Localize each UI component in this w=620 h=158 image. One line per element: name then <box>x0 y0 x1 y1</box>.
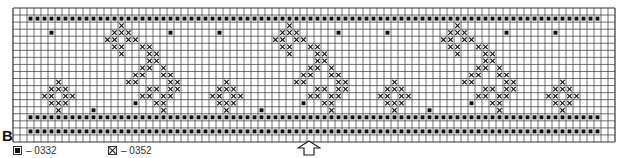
cross-stitch <box>511 80 515 84</box>
filled-square-stitch <box>71 115 75 119</box>
filled-square-stitch <box>253 115 257 119</box>
cross-stitch <box>126 38 130 42</box>
cross-stitch <box>329 108 333 112</box>
filled-square-stitch <box>85 129 89 133</box>
cross-stitch <box>399 87 403 91</box>
filled-square-stitch <box>120 129 124 133</box>
cross-stitch <box>161 66 165 70</box>
filled-square-stitch <box>260 115 264 119</box>
filled-square-stitch <box>561 17 565 21</box>
filled-square-stitch <box>442 129 446 133</box>
filled-square-stitch <box>253 17 257 21</box>
cross-stitch <box>336 80 340 84</box>
cross-stitch <box>224 101 228 105</box>
cross-stitch <box>126 30 130 34</box>
filled-square-stitch <box>127 115 131 119</box>
filled-square-stitch <box>596 115 600 119</box>
cross-stitch <box>56 108 60 112</box>
filled-square-stitch <box>470 129 474 133</box>
cross-stitch <box>462 38 466 42</box>
cross-stitch <box>112 45 116 49</box>
filled-square-stitch <box>64 17 68 21</box>
filled-square-stitch <box>148 129 152 133</box>
filled-square-stitch <box>540 17 544 21</box>
filled-square-stitch <box>323 115 327 119</box>
filled-square-stitch <box>337 129 341 133</box>
filled-square-stitch <box>92 115 96 119</box>
cross-stitch <box>112 30 116 34</box>
cross-stitch <box>385 94 389 98</box>
filled-square-stitch <box>393 129 397 133</box>
cross-stitch <box>560 87 564 91</box>
filled-square-stitch <box>155 115 159 119</box>
filled-square-stitch <box>540 115 544 119</box>
cross-stitch <box>315 45 319 49</box>
cross-stitch <box>42 94 46 98</box>
filled-square-stitch <box>470 101 474 105</box>
filled-square-stitch <box>491 115 495 119</box>
cross-stitch <box>497 73 501 77</box>
cross-stitch <box>315 94 319 98</box>
filled-square-stitch <box>85 17 89 21</box>
filled-square-stitch <box>225 115 229 119</box>
filled-square-stitch <box>211 17 215 21</box>
filled-square-stitch <box>477 115 481 119</box>
cross-stitch <box>287 45 291 49</box>
cross-stitch <box>497 101 501 105</box>
filled-square-stitch <box>113 129 117 133</box>
cross-stitch <box>119 30 123 34</box>
filled-square-stitch <box>78 115 82 119</box>
cross-stitch <box>161 94 165 98</box>
filled-square-stitch <box>113 115 117 119</box>
filled-square-stitch <box>484 17 488 21</box>
cross-stitch <box>462 30 466 34</box>
filled-square-stitch <box>421 115 425 119</box>
cross-stitch <box>476 45 480 49</box>
filled-square-stitch <box>36 115 40 119</box>
cross-stitch <box>560 108 564 112</box>
filled-square-stitch <box>498 17 502 21</box>
cross-stitch <box>497 108 501 112</box>
cross-stitch <box>455 23 459 27</box>
filled-square-stitch <box>351 115 355 119</box>
filled-square-stitch <box>183 115 187 119</box>
filled-square-stitch <box>141 115 145 119</box>
filled-square-stitch <box>57 115 61 119</box>
cross-stitch <box>392 101 396 105</box>
cross-stitch <box>448 30 452 34</box>
filled-square-stitch <box>498 115 502 119</box>
filled-square-stitch <box>526 17 530 21</box>
filled-square-stitch <box>365 17 369 21</box>
filled-square-stitch <box>302 101 306 105</box>
filled-square-stitch <box>456 129 460 133</box>
filled-square-stitch <box>281 17 285 21</box>
filled-square-stitch <box>218 17 222 21</box>
cross-stitch <box>329 94 333 98</box>
filled-square-stitch <box>428 129 432 133</box>
filled-square-stitch <box>526 129 530 133</box>
filled-square-stitch <box>407 17 411 21</box>
filled-square-stitch <box>568 115 572 119</box>
filled-square-stitch <box>316 17 320 21</box>
filled-square-stitch <box>589 129 593 133</box>
cross-stitch <box>147 87 151 91</box>
cross-stitch <box>105 38 109 42</box>
cross-stitch <box>329 66 333 70</box>
filled-square-stitch <box>400 17 404 21</box>
filled-square-stitch <box>260 17 264 21</box>
filled-square-stitch <box>106 115 110 119</box>
filled-square-stitch <box>134 101 138 105</box>
cross-stitch <box>308 94 312 98</box>
filled-square-stitch <box>71 17 75 21</box>
filled-square-stitch <box>414 115 418 119</box>
cross-stitch <box>315 59 319 63</box>
filled-square-stitch <box>281 115 285 119</box>
cross-stitch <box>140 94 144 98</box>
cross-stitch <box>490 59 494 63</box>
filled-square-stitch <box>372 17 376 21</box>
cross-stitch <box>385 101 389 105</box>
cross-stitch <box>49 101 53 105</box>
filled-square-stitch <box>92 17 96 21</box>
filled-square-stitch <box>43 115 47 119</box>
cross-stitch <box>315 52 319 56</box>
